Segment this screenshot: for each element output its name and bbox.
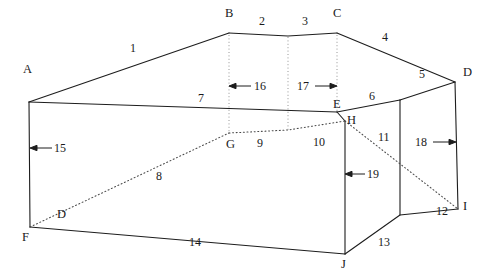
dim-arrow-15 — [30, 145, 52, 150]
edge-label-8: 8 — [156, 170, 162, 182]
projection-guides — [229, 35, 337, 134]
hidden-edge-H-I — [345, 121, 458, 209]
vertex-label-H: H — [347, 114, 356, 127]
dim-arrow-17 — [315, 83, 337, 88]
edge-F-J — [30, 227, 345, 254]
dim-arrow-18 — [433, 139, 456, 144]
hidden-edge-G-H — [229, 121, 345, 133]
edge-top-right-D — [400, 82, 455, 100]
edge-B-C — [229, 33, 337, 36]
dim-arrow-16 — [229, 83, 251, 88]
edge-label-12: 12 — [436, 205, 448, 217]
edge-label-10: 10 — [313, 136, 325, 148]
dimension-label-15: 15 — [54, 142, 66, 154]
hidden-edges — [30, 121, 458, 227]
edge-D-I — [455, 82, 458, 209]
edge-label-11: 11 — [378, 131, 390, 143]
dimension-arrows — [30, 83, 456, 176]
vertex-label-J: J — [341, 258, 346, 271]
vertex-label-D-lower: D — [57, 208, 66, 221]
vertex-label-A: A — [23, 63, 32, 76]
edge-E-H — [337, 112, 345, 121]
edge-label-4: 4 — [382, 31, 388, 43]
edge-C-D — [337, 33, 455, 82]
geometry-diagram: A B C D E F G H I J D 1 2 3 4 5 6 7 8 9 … — [0, 0, 498, 280]
vertex-label-B: B — [225, 7, 233, 20]
edge-label-9: 9 — [257, 137, 263, 149]
solid-edges — [29, 33, 458, 254]
edge-label-2: 2 — [259, 15, 265, 27]
dim-arrow-19 — [345, 171, 365, 176]
edge-label-14: 14 — [189, 236, 201, 248]
vertex-label-C: C — [333, 7, 341, 20]
vertex-label-I: I — [463, 200, 467, 213]
edge-A-E — [29, 102, 337, 112]
dimension-label-17: 17 — [297, 80, 309, 92]
vertex-label-G: G — [226, 138, 235, 151]
edge-label-5: 5 — [419, 68, 425, 80]
edge-label-7: 7 — [198, 92, 204, 104]
vertex-label-D: D — [463, 66, 472, 79]
vertex-label-F: F — [22, 231, 29, 244]
edge-label-6: 6 — [369, 90, 375, 102]
dimension-label-18: 18 — [415, 136, 427, 148]
vertex-label-E: E — [333, 98, 341, 111]
edge-label-1: 1 — [130, 42, 136, 54]
dimension-label-16: 16 — [254, 80, 266, 92]
edge-label-3: 3 — [302, 15, 308, 27]
dimension-label-19: 19 — [367, 168, 379, 180]
edge-label-13: 13 — [378, 236, 390, 248]
edge-A-F — [29, 102, 30, 227]
